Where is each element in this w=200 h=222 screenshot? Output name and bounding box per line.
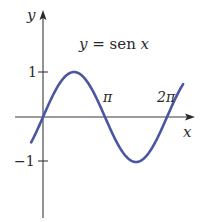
x-axis-label: x [183, 123, 192, 141]
chart-title: y = sen x [78, 35, 150, 53]
y-tick-label-1: 1 [28, 64, 37, 80]
sine-chart: y x 1 −1 π 2π y = sen x [0, 0, 200, 222]
title-eq: = sen [87, 35, 140, 53]
title-x: x [141, 35, 150, 53]
y-axis-label: y [26, 6, 36, 24]
y-tick-label-neg1: −1 [14, 153, 35, 169]
x-tick-label-2pi: 2π [156, 89, 176, 105]
x-tick-label-pi: π [102, 89, 113, 105]
